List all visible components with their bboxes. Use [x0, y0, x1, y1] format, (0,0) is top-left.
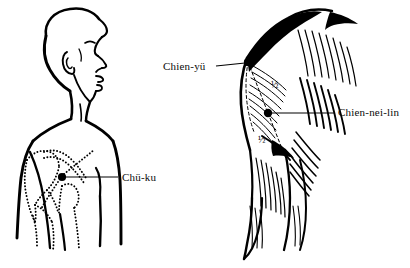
proportion-mark-lower: ½ [258, 134, 266, 145]
chien-nei-lin-label: Chien-nei-lin [338, 106, 400, 118]
anatomical-plate: Chü-ku [0, 0, 410, 268]
chu-ku-label: Chü-ku [122, 171, 156, 183]
chien-yu-point-marker [244, 58, 252, 66]
chien-yu-label: Chien-yü [163, 60, 206, 72]
right-arm-outer-line [100, 196, 101, 246]
chien-nei-lin-point-marker [264, 109, 272, 117]
plate-canvas: Chü-ku [0, 0, 410, 268]
proportion-mark-upper: ½ [271, 79, 279, 90]
chu-ku-point-marker [58, 173, 66, 181]
